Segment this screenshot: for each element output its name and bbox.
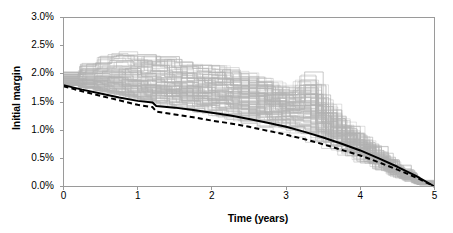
x-tick-label: 2 <box>192 190 232 201</box>
x-tick-label: 4 <box>340 190 380 201</box>
x-axis-title: Time (years) <box>63 212 453 224</box>
chart-figure: Initial margin 0.0%0.5%1.0%1.5%2.0%2.5%3… <box>0 0 453 233</box>
x-tick-label: 1 <box>118 190 158 201</box>
x-tick-label: 5 <box>415 190 453 201</box>
x-tick-label: 3 <box>266 190 306 201</box>
x-axis-tick-labels: 012345 <box>0 0 453 233</box>
x-tick-label: 0 <box>44 190 84 201</box>
